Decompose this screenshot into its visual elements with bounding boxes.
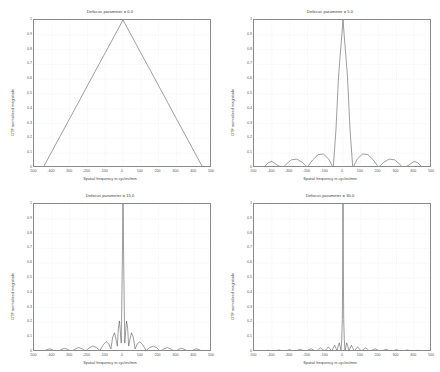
y-tick-label: 0.9 <box>27 216 32 220</box>
x-tick-label: 400 <box>410 353 416 357</box>
x-tick-label: -500 <box>29 353 36 357</box>
panel-bottom-right: Defocus parameter = 30.0 OTF normalized … <box>220 188 440 370</box>
y-tick-label: 0.7 <box>247 61 252 65</box>
x-tick-label: -100 <box>101 353 108 357</box>
y-tick-label: 0.9 <box>27 32 32 36</box>
panel-title: Defocus parameter = 30.0 <box>220 193 440 198</box>
x-tick-label: -300 <box>285 169 292 173</box>
y-tick-label: 0.8 <box>247 231 252 235</box>
x-tick-label: -400 <box>47 169 54 173</box>
panel-bottom-left: Defocus parameter = 15.0 OTF normalized … <box>0 188 220 370</box>
plot-svg <box>254 20 431 167</box>
y-tick-label: 0.6 <box>27 260 32 264</box>
y-tick-label: 0.2 <box>247 319 252 323</box>
y-tick-label: 1 <box>250 17 252 21</box>
x-tick-label: 400 <box>190 353 196 357</box>
y-tick-label: 0.9 <box>247 32 252 36</box>
x-tick-label: 100 <box>137 169 143 173</box>
y-tick-labels: 00.10.20.30.40.50.60.70.80.91 <box>12 4 32 186</box>
y-tick-labels: 00.10.20.30.40.50.60.70.80.91 <box>232 4 252 186</box>
plot-area <box>253 19 431 167</box>
y-tick-labels: 00.10.20.30.40.50.60.70.80.91 <box>232 188 252 370</box>
x-tick-label: -500 <box>29 169 36 173</box>
y-tick-label: 0.8 <box>27 47 32 51</box>
x-tick-label: -500 <box>249 169 256 173</box>
x-tick-label: 200 <box>375 169 381 173</box>
panel-top-right: Defocus parameter = 5.0 OTF normalized m… <box>220 4 440 186</box>
x-tick-label: -100 <box>101 169 108 173</box>
panel-title: Defocus parameter = 15.0 <box>0 193 220 198</box>
x-tick-label: -200 <box>303 353 310 357</box>
y-tick-label: 0.8 <box>27 231 32 235</box>
y-tick-label: 0.3 <box>27 305 32 309</box>
plot-area <box>253 203 431 351</box>
panel-top-left: Defocus parameter = 0.0 OTF normalized m… <box>0 4 220 186</box>
x-axis-label: Spatial frequency in cycles/mm <box>220 176 440 181</box>
x-tick-label: -200 <box>303 169 310 173</box>
y-tick-label: 0.8 <box>247 47 252 51</box>
x-tick-label: 300 <box>172 353 178 357</box>
y-tick-label: 0.1 <box>27 334 32 338</box>
x-tick-label: 500 <box>428 353 434 357</box>
x-axis-label: Spatial frequency in cycles/mm <box>0 360 220 365</box>
x-tick-label: 400 <box>410 169 416 173</box>
y-tick-label: 0.7 <box>247 245 252 249</box>
y-tick-label: 0.5 <box>247 91 252 95</box>
x-tick-label: -400 <box>267 169 274 173</box>
x-tick-label: -500 <box>249 353 256 357</box>
y-tick-label: 0.2 <box>247 135 252 139</box>
y-tick-label: 0.6 <box>247 76 252 80</box>
y-tick-label: 1 <box>30 201 32 205</box>
x-tick-label: 300 <box>392 169 398 173</box>
plot-svg <box>254 204 431 351</box>
y-tick-label: 0.5 <box>27 91 32 95</box>
x-tick-label: -100 <box>321 353 328 357</box>
y-tick-label: 0.6 <box>247 260 252 264</box>
y-tick-label: 0.5 <box>247 275 252 279</box>
y-tick-label: 0.4 <box>247 290 252 294</box>
x-axis-label: Spatial frequency in cycles/mm <box>0 176 220 181</box>
y-tick-label: 0.3 <box>247 121 252 125</box>
x-tick-label: 500 <box>208 169 214 173</box>
x-tick-label: 0 <box>121 353 123 357</box>
panel-title: Defocus parameter = 0.0 <box>0 9 220 14</box>
plot-svg <box>34 20 211 167</box>
x-tick-label: 100 <box>357 353 363 357</box>
y-tick-label: 0.1 <box>27 150 32 154</box>
x-tick-label: 0 <box>121 169 123 173</box>
x-tick-label: 0 <box>341 353 343 357</box>
x-axis-label: Spatial frequency in cycles/mm <box>220 360 440 365</box>
y-tick-label: 0.3 <box>247 305 252 309</box>
otf-figure: Defocus parameter = 0.0 OTF normalized m… <box>0 0 440 372</box>
y-tick-label: 0.6 <box>27 76 32 80</box>
x-tick-label: 500 <box>208 353 214 357</box>
x-tick-label: -200 <box>83 353 90 357</box>
x-tick-label: 100 <box>137 353 143 357</box>
x-tick-label: -300 <box>285 353 292 357</box>
x-tick-label: 300 <box>172 169 178 173</box>
plot-svg <box>34 204 211 351</box>
y-tick-label: 0.3 <box>27 121 32 125</box>
x-tick-label: -400 <box>47 353 54 357</box>
x-tick-label: 200 <box>155 169 161 173</box>
y-tick-labels: 00.10.20.30.40.50.60.70.80.91 <box>12 188 32 370</box>
x-tick-label: -200 <box>83 169 90 173</box>
panel-title: Defocus parameter = 5.0 <box>220 9 440 14</box>
y-tick-label: 0.4 <box>247 106 252 110</box>
x-tick-label: -100 <box>321 169 328 173</box>
x-tick-label: -300 <box>65 353 72 357</box>
x-tick-label: -300 <box>65 169 72 173</box>
y-tick-label: 1 <box>250 201 252 205</box>
y-tick-label: 0.4 <box>27 106 32 110</box>
y-tick-label: 0.2 <box>27 319 32 323</box>
y-tick-label: 0.1 <box>247 334 252 338</box>
x-tick-label: 200 <box>375 353 381 357</box>
y-tick-label: 1 <box>30 17 32 21</box>
y-tick-label: 0.7 <box>27 61 32 65</box>
y-tick-label: 0.4 <box>27 290 32 294</box>
y-tick-label: 0.9 <box>247 216 252 220</box>
plot-area <box>33 19 211 167</box>
y-tick-label: 0.2 <box>27 135 32 139</box>
y-tick-label: 0.5 <box>27 275 32 279</box>
x-tick-label: 400 <box>190 169 196 173</box>
